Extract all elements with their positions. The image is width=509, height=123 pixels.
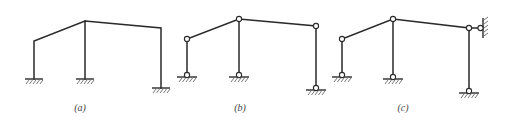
pin-support-icon bbox=[177, 72, 197, 82]
pin-support-icon bbox=[332, 72, 352, 82]
frame-b-members bbox=[187, 19, 316, 88]
pin-support-icon bbox=[383, 74, 403, 84]
panel-c: (c) bbox=[332, 16, 488, 114]
panel-c-label: (c) bbox=[397, 102, 409, 114]
hinge-joint-icon bbox=[236, 16, 241, 21]
frame-diagrams: (a) (b) bbox=[0, 0, 509, 123]
panel-a-label: (a) bbox=[74, 102, 86, 114]
pin-support-icon bbox=[229, 72, 249, 82]
panel-b-label: (b) bbox=[234, 102, 246, 114]
hinge-joint-icon bbox=[313, 23, 318, 28]
frame-c-members bbox=[342, 19, 469, 91]
hinge-joint-icon bbox=[339, 36, 344, 41]
frame-a-members bbox=[34, 21, 161, 88]
hinge-joint-icon bbox=[390, 16, 395, 21]
pin-support-icon bbox=[306, 85, 326, 95]
hinge-joint-icon bbox=[184, 36, 189, 41]
pin-support-icon bbox=[459, 88, 479, 98]
panel-a: (a) bbox=[25, 21, 170, 114]
hinge-joint-icon bbox=[466, 25, 471, 30]
wall-pin-support-icon bbox=[478, 17, 488, 38]
panel-b: (b) bbox=[177, 16, 326, 114]
